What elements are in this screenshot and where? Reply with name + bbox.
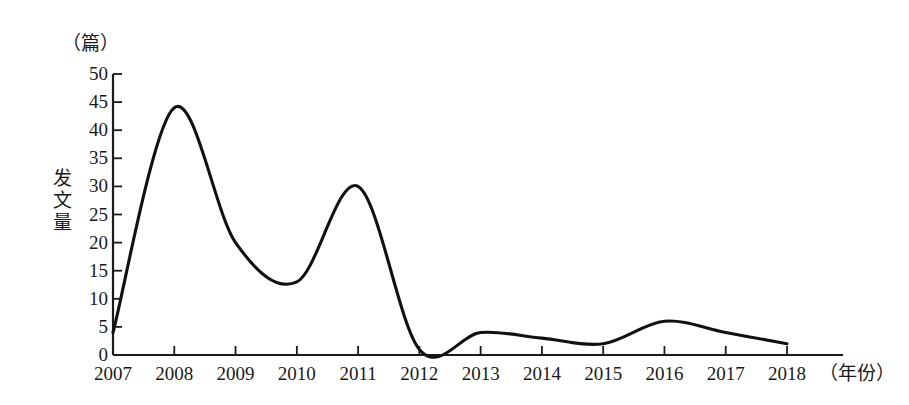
y-tick-label: 40 [74,120,108,139]
x-tick-label: 2012 [387,364,451,383]
x-tick-label: 2008 [142,364,206,383]
y-tick-label: 30 [74,176,108,195]
y-tick-label: 50 [74,64,108,83]
x-tick-label: 2011 [326,364,390,383]
y-tick-label: 25 [74,205,108,224]
x-tick-label: 2009 [204,364,268,383]
y-tick-label: 0 [74,345,108,364]
data-series-line [113,106,787,357]
y-tick-label: 10 [74,289,108,308]
y-tick-label: 15 [74,261,108,280]
x-tick-label: 2016 [632,364,696,383]
y-tick-label: 20 [74,233,108,252]
x-tick-label: 2013 [449,364,513,383]
x-tick-label: 2017 [694,364,758,383]
y-tick-label: 5 [74,317,108,336]
x-tick-label: 2007 [81,364,145,383]
x-axis-unit-label: （年份） [819,364,895,383]
plot-area [0,0,909,405]
x-tick-label: 2010 [265,364,329,383]
y-tick-label: 35 [74,148,108,167]
line-chart: （篇） 发文量 05101520253035404550 20072008200… [0,0,909,405]
y-tick-label: 45 [74,92,108,111]
x-tick-label: 2014 [510,364,574,383]
x-tick-label: 2015 [571,364,635,383]
x-tick-label: 2018 [755,364,819,383]
